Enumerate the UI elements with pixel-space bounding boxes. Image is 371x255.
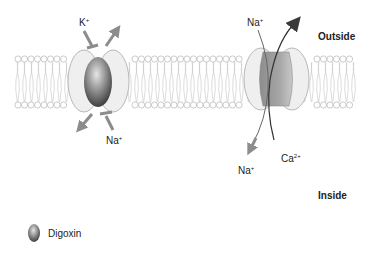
lipid-head <box>60 56 66 62</box>
lipid-head <box>28 102 34 108</box>
na-ion-label-top: Na+ <box>247 17 264 28</box>
k-inhibited-arrow <box>84 31 98 48</box>
lipid-head <box>346 56 352 62</box>
na-inhibited-arrow <box>100 112 113 130</box>
lipid-head <box>151 102 157 108</box>
lipid-head <box>327 56 333 62</box>
lipid-head <box>197 56 203 62</box>
lipid-head <box>229 102 235 108</box>
lipid-head <box>190 102 196 108</box>
lipid-head <box>197 102 203 108</box>
lipid-head <box>223 56 229 62</box>
lipid-head <box>54 56 60 62</box>
lipid-head <box>177 102 183 108</box>
lipid-head <box>210 56 216 62</box>
lipid-head <box>21 102 27 108</box>
lipid-head <box>158 102 164 108</box>
na-k-atpase-pump: K+ Na+ <box>68 17 129 146</box>
lipid-head <box>171 102 177 108</box>
lipid-head <box>34 102 40 108</box>
lipid-head <box>340 56 346 62</box>
digoxin-legend-icon <box>28 224 40 242</box>
lipid-head <box>47 56 53 62</box>
na-ion-label-left: Na+ <box>106 135 123 146</box>
lipid-head <box>314 102 320 108</box>
lipid-head <box>158 56 164 62</box>
lipid-head <box>190 56 196 62</box>
lipid-head <box>216 102 222 108</box>
lipid-head <box>34 56 40 62</box>
lipid-head <box>320 56 326 62</box>
lipid-head <box>47 102 53 108</box>
lipid-head <box>216 56 222 62</box>
lipid-head <box>41 102 47 108</box>
lipid-head <box>138 102 144 108</box>
lipid-head <box>145 56 151 62</box>
lipid-head <box>210 102 216 108</box>
k-ion-label: K+ <box>79 17 90 28</box>
lipid-head <box>333 56 339 62</box>
lipid-head <box>132 102 138 108</box>
k-influx-arrow <box>80 114 92 128</box>
lipid-head <box>236 56 242 62</box>
lipid-head <box>340 102 346 108</box>
na-efflux-arrow <box>106 30 117 46</box>
lipid-head <box>184 102 190 108</box>
digoxin-mechanism-diagram: K+ Na+ Na+ Na+ Ca2+ Outside Inside Digox… <box>0 0 371 255</box>
inside-label: Inside <box>318 190 347 201</box>
lipid-head <box>15 56 21 62</box>
lipid-head <box>177 56 183 62</box>
lipid-head <box>15 102 21 108</box>
lipid-head <box>54 102 60 108</box>
lipid-head <box>28 56 34 62</box>
lipid-head <box>333 102 339 108</box>
na-ca-exchanger: Na+ Na+ Ca2+ <box>238 17 309 176</box>
ca-ion-label: Ca2+ <box>281 153 301 164</box>
lipid-head <box>138 56 144 62</box>
lipid-head <box>151 56 157 62</box>
digoxin-legend-label: Digoxin <box>48 228 81 239</box>
lipid-head <box>41 56 47 62</box>
lipid-head <box>145 102 151 108</box>
lipid-head <box>164 56 170 62</box>
na-ion-label-bottom: Na+ <box>238 165 255 176</box>
lipid-head <box>229 56 235 62</box>
lipid-head <box>60 102 66 108</box>
lipid-head <box>203 56 209 62</box>
lipid-head <box>164 102 170 108</box>
lipid-head <box>21 56 27 62</box>
lipid-head <box>223 102 229 108</box>
lipid-head <box>346 102 352 108</box>
outside-label: Outside <box>318 31 356 42</box>
digoxin-molecule <box>84 57 112 107</box>
lipid-head <box>171 56 177 62</box>
legend: Digoxin <box>28 224 81 242</box>
lipid-head <box>132 56 138 62</box>
lipid-head <box>184 56 190 62</box>
lipid-head <box>203 102 209 108</box>
lipid-head <box>320 102 326 108</box>
lipid-head <box>314 56 320 62</box>
lipid-head <box>327 102 333 108</box>
lipid-head <box>236 102 242 108</box>
